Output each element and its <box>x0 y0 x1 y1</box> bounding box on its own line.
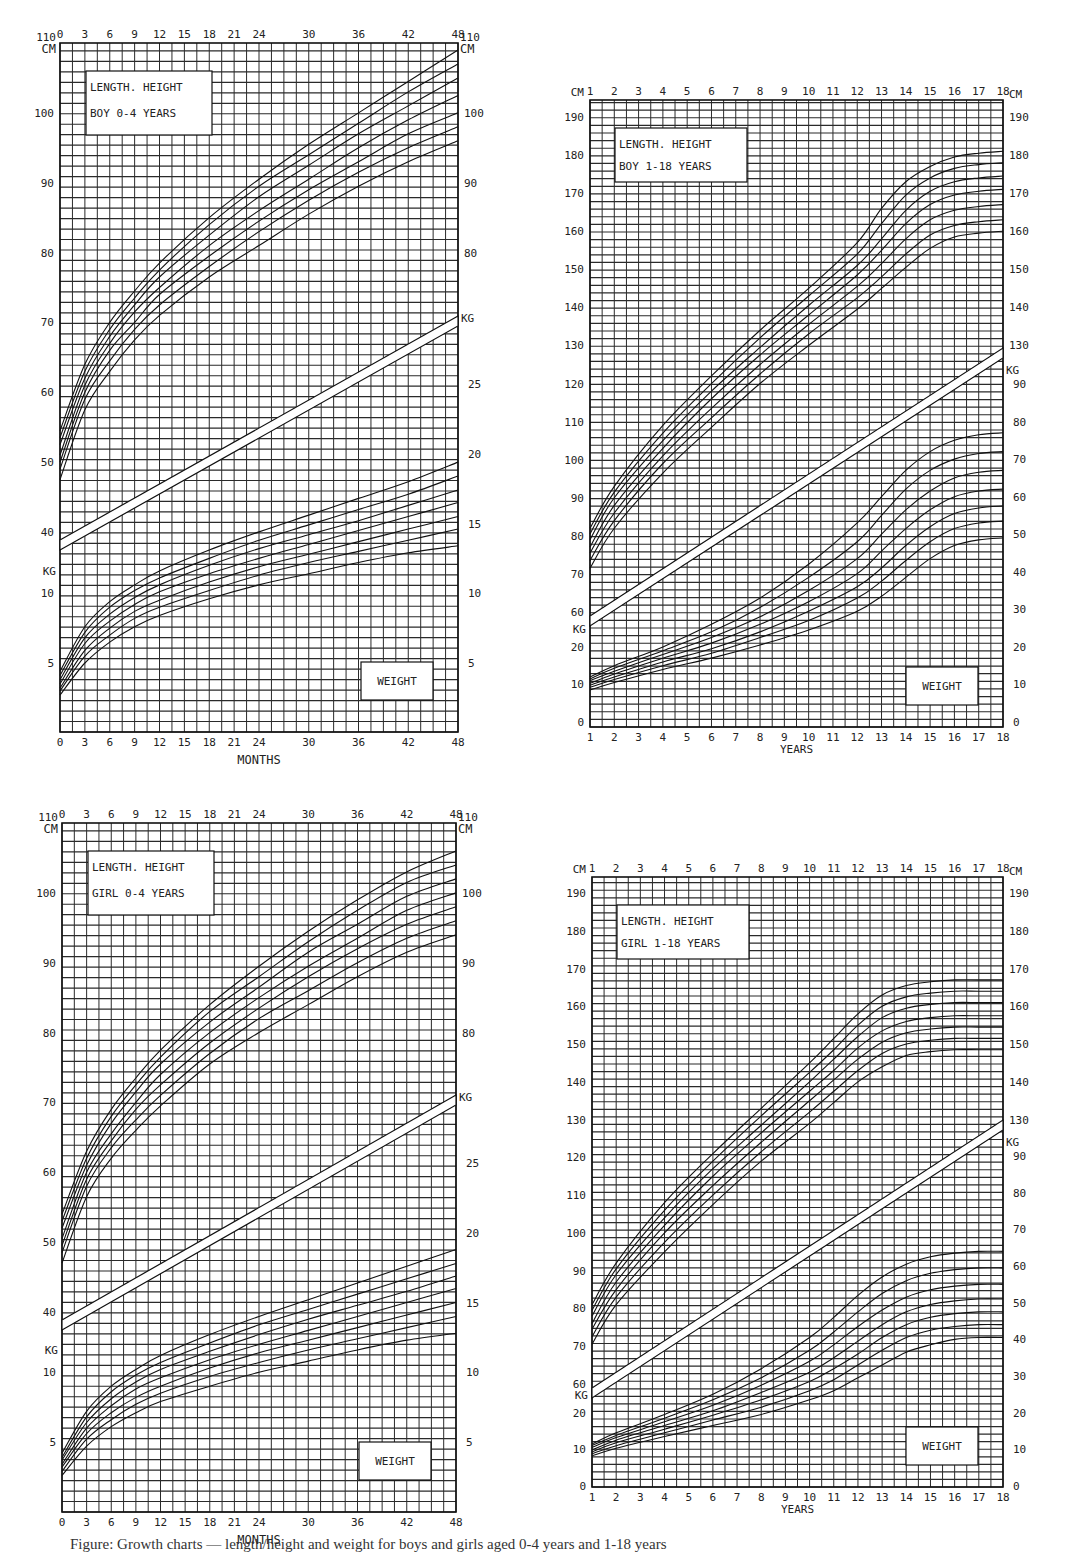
svg-text:12: 12 <box>851 862 864 875</box>
svg-text:0: 0 <box>579 1480 586 1493</box>
svg-text:9: 9 <box>782 862 789 875</box>
svg-text:12: 12 <box>851 1491 864 1504</box>
svg-text:KG: KG <box>459 1091 472 1104</box>
svg-text:180: 180 <box>1009 149 1029 162</box>
weight-label-box: WEIGHT <box>361 662 433 700</box>
svg-text:90: 90 <box>1013 378 1026 391</box>
chart-boy-0-4: LENGTH. HEIGHTBOY 0-4 YEARSWEIGHT0033669… <box>34 28 484 767</box>
svg-text:30: 30 <box>302 736 315 749</box>
svg-text:42: 42 <box>402 736 415 749</box>
svg-text:90: 90 <box>571 492 584 505</box>
svg-text:16: 16 <box>948 85 961 98</box>
figure-caption: Figure: Growth charts — length/height an… <box>70 1536 1070 1554</box>
svg-text:15: 15 <box>924 1491 937 1504</box>
svg-text:CM: CM <box>44 822 58 836</box>
svg-text:180: 180 <box>1009 925 1029 938</box>
svg-text:20: 20 <box>1013 1407 1026 1420</box>
svg-text:WEIGHT: WEIGHT <box>377 675 417 688</box>
svg-text:110: 110 <box>564 416 584 429</box>
chart-title: LENGTH. HEIGHT <box>621 915 714 928</box>
svg-text:14: 14 <box>899 85 913 98</box>
svg-text:36: 36 <box>351 808 364 821</box>
svg-text:90: 90 <box>41 177 54 190</box>
x-axis: 1122334455667788991010111112121313141415… <box>589 862 1010 1516</box>
svg-text:CM: CM <box>458 822 472 836</box>
svg-text:15: 15 <box>923 731 936 744</box>
x-axis-label: MONTHS <box>237 753 280 767</box>
svg-text:100: 100 <box>564 454 584 467</box>
svg-text:11: 11 <box>827 1491 840 1504</box>
svg-text:160: 160 <box>1009 1000 1029 1013</box>
svg-text:80: 80 <box>41 247 54 260</box>
x-axis: 0033669912121515181821212424303036364242… <box>57 28 465 767</box>
svg-text:90: 90 <box>464 177 477 190</box>
svg-text:17: 17 <box>972 731 985 744</box>
svg-text:120: 120 <box>564 378 584 391</box>
svg-text:13: 13 <box>875 731 888 744</box>
svg-text:80: 80 <box>462 1027 475 1040</box>
svg-text:120: 120 <box>566 1151 586 1164</box>
svg-text:100: 100 <box>566 1227 586 1240</box>
svg-text:60: 60 <box>1013 491 1026 504</box>
svg-text:9: 9 <box>781 85 788 98</box>
svg-text:2: 2 <box>613 862 620 875</box>
svg-text:KG: KG <box>45 1344 58 1357</box>
svg-text:30: 30 <box>1013 603 1026 616</box>
svg-text:10: 10 <box>1013 678 1026 691</box>
svg-text:60: 60 <box>1013 1260 1026 1273</box>
svg-text:190: 190 <box>1009 887 1029 900</box>
svg-text:3: 3 <box>82 736 89 749</box>
svg-text:9: 9 <box>133 1516 140 1529</box>
svg-text:190: 190 <box>564 111 584 124</box>
svg-text:15: 15 <box>924 862 937 875</box>
svg-text:10: 10 <box>1013 1443 1026 1456</box>
svg-text:100: 100 <box>36 887 56 900</box>
svg-text:60: 60 <box>43 1166 56 1179</box>
svg-text:24: 24 <box>252 736 266 749</box>
svg-text:12: 12 <box>154 808 167 821</box>
svg-text:150: 150 <box>1009 1038 1029 1051</box>
svg-text:42: 42 <box>400 1516 413 1529</box>
svg-text:3: 3 <box>83 1516 90 1529</box>
svg-text:18: 18 <box>203 1516 216 1529</box>
svg-text:11: 11 <box>827 862 840 875</box>
svg-text:160: 160 <box>1009 225 1029 238</box>
x-axis-label: YEARS <box>781 1503 814 1516</box>
svg-text:36: 36 <box>352 736 365 749</box>
svg-text:70: 70 <box>43 1096 56 1109</box>
svg-text:40: 40 <box>43 1306 56 1319</box>
svg-text:CM: CM <box>1009 865 1023 878</box>
chart-title: LENGTH. HEIGHT <box>90 81 183 94</box>
svg-text:60: 60 <box>41 386 54 399</box>
svg-text:0: 0 <box>57 28 64 41</box>
svg-text:9: 9 <box>133 808 140 821</box>
svg-text:20: 20 <box>466 1227 479 1240</box>
svg-text:6: 6 <box>106 28 113 41</box>
chart-title-box: LENGTH. HEIGHTGIRL 1-18 YEARS <box>617 905 749 959</box>
svg-text:KG: KG <box>575 1389 588 1402</box>
svg-text:9: 9 <box>131 28 138 41</box>
svg-text:80: 80 <box>43 1027 56 1040</box>
svg-text:7: 7 <box>732 85 739 98</box>
svg-text:5: 5 <box>466 1436 473 1449</box>
grid <box>60 43 458 732</box>
svg-text:130: 130 <box>1009 339 1029 352</box>
svg-text:0: 0 <box>577 716 584 729</box>
svg-text:6: 6 <box>108 808 115 821</box>
svg-text:3: 3 <box>82 28 89 41</box>
svg-text:70: 70 <box>573 1340 586 1353</box>
chart-title-box: LENGTH. HEIGHTBOY 0-4 YEARS <box>86 71 212 135</box>
svg-text:3: 3 <box>83 808 90 821</box>
svg-text:WEIGHT: WEIGHT <box>922 680 962 693</box>
weight-label-box: WEIGHT <box>359 1442 431 1480</box>
svg-text:15: 15 <box>466 1297 479 1310</box>
svg-text:160: 160 <box>566 1000 586 1013</box>
svg-text:6: 6 <box>710 862 717 875</box>
svg-text:110: 110 <box>566 1189 586 1202</box>
svg-text:12: 12 <box>851 85 864 98</box>
chart-title-box: LENGTH. HEIGHTBOY 1-18 YEARS <box>615 128 747 182</box>
svg-text:24: 24 <box>252 28 266 41</box>
svg-text:1: 1 <box>589 862 596 875</box>
svg-text:50: 50 <box>43 1236 56 1249</box>
svg-text:20: 20 <box>573 1407 586 1420</box>
